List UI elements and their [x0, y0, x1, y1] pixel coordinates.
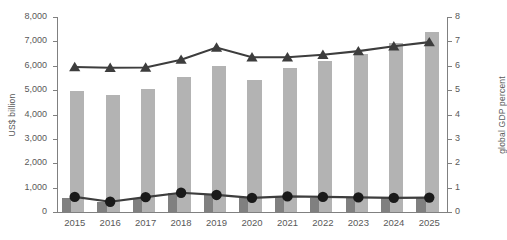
secondary-value-marker [140, 192, 150, 202]
secondary-value-marker [424, 192, 434, 202]
gdp-percent-marker [211, 42, 222, 51]
secondary-value-marker [389, 193, 399, 203]
secondary-value-marker [211, 190, 221, 200]
secondary-value-marker [105, 197, 115, 207]
secondary-value-marker [353, 192, 363, 202]
secondary-value-marker [70, 192, 80, 202]
secondary-value-marker [176, 188, 186, 198]
secondary-value-marker [247, 193, 257, 203]
secondary-value-marker [318, 192, 328, 202]
secondary-value-marker [282, 191, 292, 201]
